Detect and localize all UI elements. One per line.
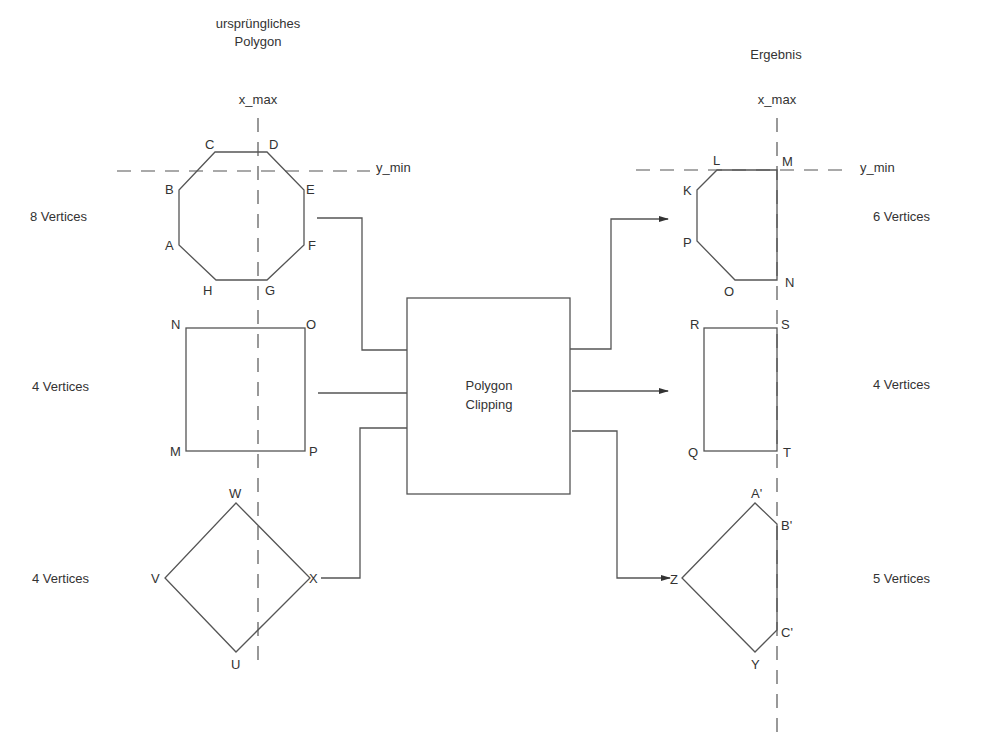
x-max-label-right: x_max	[758, 92, 797, 107]
svg-text:M: M	[170, 444, 181, 459]
output-3-vertex-labels: Z A' B' C' Y	[670, 486, 793, 672]
svg-text:E: E	[306, 182, 315, 197]
y-min-label-left: y_min	[376, 160, 411, 175]
svg-text:N: N	[171, 317, 180, 332]
input-1-vertex-count: 8 Vertices	[30, 209, 88, 224]
svg-text:O: O	[306, 317, 316, 332]
x-max-label-left: x_max	[239, 92, 278, 107]
polygon-clipping-diagram: ursprüngliches Polygon Ergebnis x_max x_…	[0, 0, 981, 753]
svg-text:G: G	[265, 283, 275, 298]
svg-text:B: B	[165, 182, 174, 197]
output-3-vertex-count: 5 Vertices	[873, 571, 931, 586]
svg-text:C': C'	[781, 625, 793, 640]
output-1-vertex-count: 6 Vertices	[873, 209, 931, 224]
svg-text:Q: Q	[688, 445, 698, 460]
svg-text:P: P	[309, 444, 318, 459]
svg-text:M: M	[782, 154, 793, 169]
y-min-label-right: y_min	[860, 160, 895, 175]
svg-text:B': B'	[781, 518, 792, 533]
output-rectangle	[704, 328, 777, 451]
polygon-clipping-box	[407, 298, 570, 494]
svg-text:O: O	[724, 284, 734, 299]
diamond-vertex-labels: U V W X	[151, 486, 318, 672]
svg-text:Y: Y	[751, 657, 760, 672]
svg-text:S: S	[781, 317, 790, 332]
square-vertex-labels: M N O P	[170, 317, 318, 459]
svg-text:U: U	[231, 657, 240, 672]
output-2-vertex-count: 4 Vertices	[873, 377, 931, 392]
svg-text:R: R	[690, 317, 699, 332]
svg-text:X: X	[309, 571, 318, 586]
svg-text:Z: Z	[670, 572, 678, 587]
svg-text:N: N	[785, 275, 794, 290]
svg-text:D: D	[269, 137, 278, 152]
input-diamond	[165, 503, 310, 652]
octagon-vertex-labels: A B C D E F G H	[165, 137, 316, 298]
output-1-vertex-labels: K L M N O P	[683, 153, 794, 299]
svg-text:L: L	[713, 153, 720, 168]
svg-text:P: P	[683, 235, 692, 250]
input-2-vertex-count: 4 Vertices	[32, 379, 90, 394]
input-3-vertex-count: 4 Vertices	[32, 571, 90, 586]
svg-text:A: A	[165, 238, 174, 253]
original-title-line2: Polygon	[235, 34, 282, 49]
input-square	[186, 328, 305, 451]
svg-text:K: K	[683, 183, 692, 198]
svg-text:H: H	[203, 283, 212, 298]
svg-text:T: T	[783, 445, 791, 460]
connector-output-1	[570, 219, 668, 349]
connector-input-1	[317, 218, 407, 350]
process-label-line2: Clipping	[466, 397, 513, 412]
svg-text:C: C	[205, 137, 214, 152]
svg-text:W: W	[229, 486, 242, 501]
output-hexagon	[697, 170, 777, 280]
connector-input-3	[321, 428, 407, 578]
result-title: Ergebnis	[750, 47, 802, 62]
output-pentagon	[682, 503, 777, 652]
connector-output-3	[572, 431, 670, 578]
svg-text:V: V	[151, 571, 160, 586]
svg-text:F: F	[308, 238, 316, 253]
original-title-line1: ursprüngliches	[216, 16, 301, 31]
process-label-line1: Polygon	[466, 378, 513, 393]
svg-text:A': A'	[751, 486, 762, 501]
